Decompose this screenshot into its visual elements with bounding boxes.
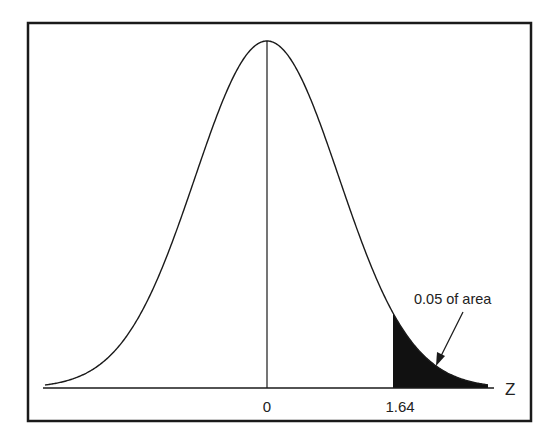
tick-label-critical: 1.64 (385, 398, 414, 415)
annotation-arrow-shaft (440, 312, 463, 358)
shaded-tail-region (393, 313, 488, 388)
tick-label-zero: 0 (263, 398, 271, 415)
area-annotation: 0.05 of area (414, 291, 492, 307)
annotation-arrow-head-icon (436, 352, 445, 366)
normal-curve-chart: 0.05 of area 0 1.64 Z (0, 0, 550, 440)
axis-label-z: Z (505, 380, 515, 399)
